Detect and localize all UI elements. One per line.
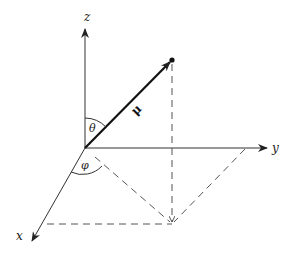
mu-label: μ bbox=[128, 102, 144, 118]
theta-label: θ bbox=[89, 122, 96, 135]
vector-tip-point bbox=[169, 57, 174, 62]
x-axis bbox=[32, 148, 85, 241]
spherical-coordinate-diagram: z y x μ θ φ bbox=[0, 0, 296, 253]
z-axis-label: z bbox=[83, 10, 91, 24]
x-axis-label: x bbox=[16, 229, 23, 243]
y-axis-label: y bbox=[271, 141, 279, 155]
mu-vector bbox=[85, 62, 170, 148]
y-component-line bbox=[174, 149, 245, 222]
xy-projection-line bbox=[95, 157, 170, 222]
phi-label: φ bbox=[81, 159, 89, 172]
